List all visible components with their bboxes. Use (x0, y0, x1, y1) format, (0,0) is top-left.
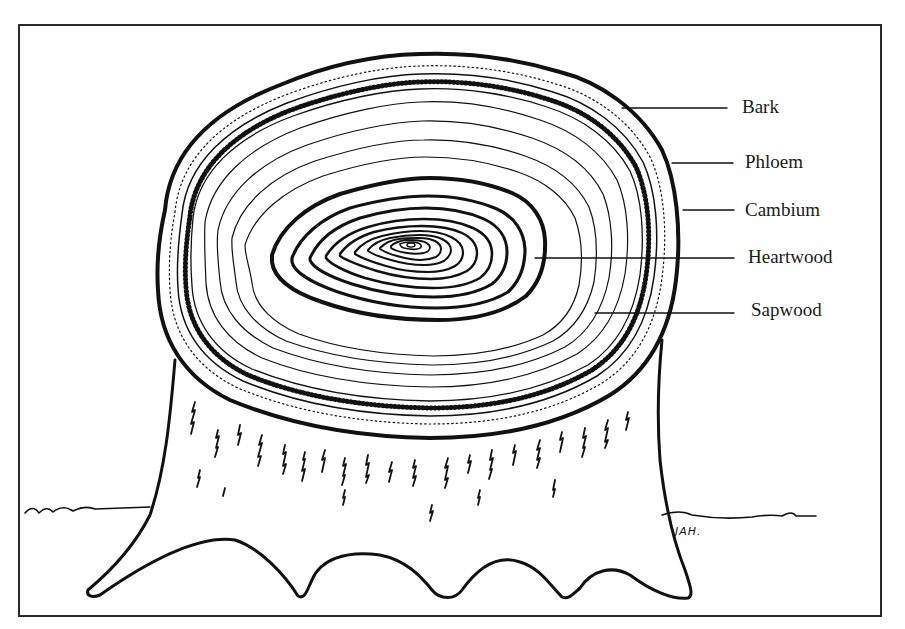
label-heartwood: Heartwood (748, 247, 832, 266)
label-bark: Bark (742, 97, 779, 116)
label-phloem: Phloem (745, 152, 803, 171)
ground-line-left (25, 507, 150, 513)
cambium-ticks (185, 82, 648, 408)
artist-signature: JAH. (675, 525, 702, 538)
sapwood-rings (205, 102, 628, 387)
heartwood-rings (272, 178, 545, 320)
bark-outer-edge (157, 54, 678, 438)
trunk-bark-texture (191, 402, 629, 521)
label-sapwood: Sapwood (751, 300, 822, 319)
label-cambium: Cambium (745, 200, 820, 219)
ground-line-right (662, 512, 816, 518)
